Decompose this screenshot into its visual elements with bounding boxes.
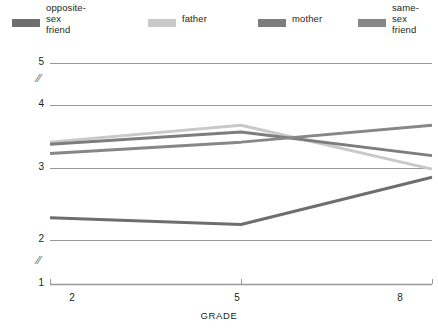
x-axis-title: GRADE (0, 310, 438, 321)
series-line-mother (50, 132, 432, 156)
plot-svg (0, 0, 438, 329)
x-tick-label-5: 5 (225, 292, 249, 303)
companionship-line-chart: opposite-sex friend father mother same-s… (0, 0, 438, 329)
y-tick-label-1: 1 (26, 277, 44, 288)
x-tick-label-8: 8 (388, 292, 412, 303)
y-tick-label-2: 2 (26, 233, 44, 244)
x-tick-label-2: 2 (60, 292, 84, 303)
plot-area: MEAN RATINGS OF COMPANIONSHIP 5 4 3 2 1 … (0, 0, 438, 329)
series-line-opposite-sex-friend (50, 177, 432, 224)
y-tick-label-3: 3 (26, 161, 44, 172)
series-lines (50, 125, 432, 224)
x-axis-ticks (51, 279, 433, 284)
y-tick-label-5: 5 (26, 56, 44, 67)
y-tick-label-4: 4 (26, 98, 44, 109)
gridlines (50, 64, 432, 285)
